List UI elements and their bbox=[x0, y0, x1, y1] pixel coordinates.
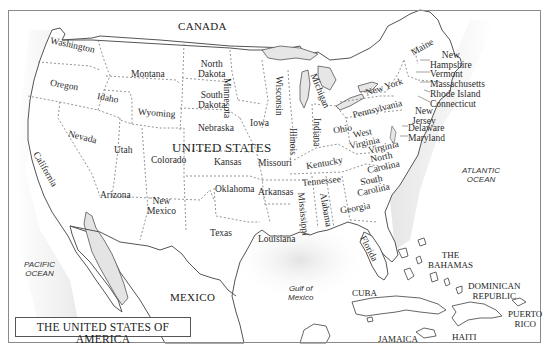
label-north-dakota-line1: North bbox=[198, 59, 225, 69]
label-indiana: Indiana bbox=[312, 118, 322, 147]
label-louisiana: Louisiana bbox=[258, 234, 295, 244]
label-bahamas-line1: THE bbox=[428, 250, 473, 260]
label-jamaica: JAMAICA bbox=[378, 334, 418, 344]
label-new-hampshire-line1: New bbox=[430, 50, 472, 60]
label-bahamas: THE BAHAMAS bbox=[428, 250, 473, 270]
map-title-box: THE UNITED STATES OF AMERICA bbox=[15, 317, 191, 337]
label-new-mexico-line2: Mexico bbox=[147, 206, 176, 216]
label-iowa: Iowa bbox=[250, 118, 269, 128]
label-illinois: Illinois bbox=[288, 128, 298, 155]
label-atlantic-ocean: ATLANTIC OCEAN bbox=[462, 166, 500, 184]
label-utah: Utah bbox=[114, 145, 132, 155]
label-puerto-rico-line1: PUERTO bbox=[508, 309, 542, 319]
label-missouri: Missouri bbox=[258, 158, 292, 168]
label-bahamas-line2: BAHAMAS bbox=[428, 260, 473, 270]
label-dominican-republic: DOMINICAN REPUBLIC bbox=[468, 281, 521, 301]
label-rhode-island: Rhode Island bbox=[430, 89, 480, 99]
label-dominican-line1: DOMINICAN bbox=[468, 281, 521, 291]
label-texas: Texas bbox=[210, 228, 232, 238]
label-pacific-line2: OCEAN bbox=[24, 269, 55, 278]
label-arizona: Arizona bbox=[100, 190, 131, 200]
label-colorado: Colorado bbox=[151, 155, 186, 165]
map-title: THE UNITED STATES OF AMERICA bbox=[16, 321, 190, 345]
label-connecticut: Connecticut bbox=[430, 99, 476, 109]
label-mexico: MEXICO bbox=[170, 292, 215, 302]
label-new-mexico: New Mexico bbox=[147, 196, 176, 216]
label-kansas: Kansas bbox=[214, 157, 241, 167]
label-montana: Montana bbox=[131, 69, 165, 79]
label-north-dakota: North Dakota bbox=[198, 59, 225, 79]
label-massachusetts: Massachusetts bbox=[430, 79, 485, 89]
label-new-hampshire: New Hampshire bbox=[430, 50, 472, 70]
label-puerto-rico-line2: RICO bbox=[508, 319, 542, 329]
label-maryland: Maryland bbox=[408, 133, 445, 143]
label-arkansas: Arkansas bbox=[258, 187, 293, 197]
label-atlantic-line1: ATLANTIC bbox=[462, 166, 500, 175]
label-gulf-line1: Gulf of bbox=[288, 284, 313, 293]
usa-map: CANADA MEXICO UNITED STATES CUBA THE BAH… bbox=[0, 0, 548, 350]
label-gulf-of-mexico: Gulf of Mexico bbox=[288, 284, 313, 302]
label-atlantic-line2: OCEAN bbox=[462, 175, 500, 184]
label-cuba: CUBA bbox=[352, 288, 377, 298]
label-pacific-ocean: PACIFIC OCEAN bbox=[24, 260, 55, 278]
label-pacific-line1: PACIFIC bbox=[24, 260, 55, 269]
label-new-jersey-line1: New bbox=[412, 106, 436, 116]
label-dominican-line2: REPUBLIC bbox=[468, 291, 521, 301]
label-delaware: Delaware bbox=[408, 123, 444, 133]
label-minnesota: Minnesota bbox=[222, 78, 232, 118]
label-nebraska: Nebraska bbox=[198, 123, 234, 133]
label-united-states: UNITED STATES bbox=[172, 143, 271, 153]
label-gulf-line2: Mexico bbox=[288, 293, 313, 302]
label-puerto-rico: PUERTO RICO bbox=[508, 309, 542, 329]
label-new-mexico-line1: New bbox=[147, 196, 176, 206]
label-canada: CANADA bbox=[178, 21, 227, 31]
label-vermont: Vermont bbox=[430, 69, 463, 79]
label-wisconsin: Wisconsin bbox=[274, 76, 284, 116]
label-oklahoma: Oklahoma bbox=[215, 184, 255, 194]
label-haiti: HAITI bbox=[452, 332, 477, 342]
